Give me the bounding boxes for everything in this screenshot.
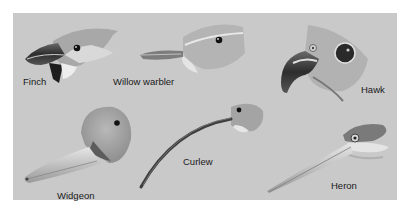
label-hawk: Hawk (361, 85, 385, 95)
widgeon-head (25, 107, 132, 183)
label-willow-warbler: Willow warbler (113, 77, 174, 87)
bird-beaks-illustration: Finch Willow warbler Hawk Widgeon Curlew… (13, 13, 397, 200)
hawk-head (281, 25, 368, 101)
finch-head (25, 29, 118, 83)
label-curlew: Curlew (183, 157, 213, 167)
label-widgeon: Widgeon (57, 191, 95, 201)
curlew-head (141, 104, 263, 187)
willow-warbler-head (140, 25, 245, 73)
heron-head (267, 124, 389, 193)
label-finch: Finch (23, 77, 46, 87)
label-heron: Heron (331, 181, 357, 191)
